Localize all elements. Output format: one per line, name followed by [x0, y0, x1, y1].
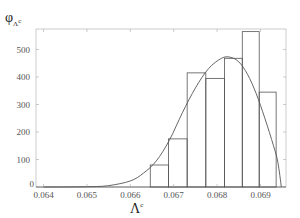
- histogram-bar: [168, 139, 187, 187]
- y-tick-label: 0: [30, 179, 35, 189]
- histogram-chart: 0.0640.0650.0660.0670.0680.069 010020030…: [0, 0, 300, 218]
- fitted-density-curve: [44, 57, 282, 187]
- histogram-bar: [259, 92, 276, 187]
- histogram-bar: [224, 58, 242, 187]
- x-axis-label: Λc: [130, 201, 143, 216]
- histogram-bars: [150, 32, 276, 187]
- y-tick-label: 100: [17, 155, 31, 165]
- y-tick-label: 300: [17, 100, 31, 110]
- y-axis-ticks: 0100200300400500: [17, 45, 287, 190]
- x-tick-label: 0.069: [250, 190, 271, 200]
- histogram-bar: [242, 32, 259, 187]
- y-tick-label: 500: [17, 45, 31, 55]
- histogram-bar: [150, 165, 168, 187]
- x-axis-ticks: 0.0640.0650.0660.0670.0680.069: [33, 29, 271, 200]
- y-axis-label: φΛc: [5, 10, 21, 28]
- x-tick-label: 0.065: [77, 190, 98, 200]
- x-tick-label: 0.067: [164, 190, 185, 200]
- x-tick-label: 0.068: [207, 190, 228, 200]
- histogram-bar: [187, 73, 206, 187]
- plot-frame: [36, 29, 286, 187]
- x-tick-label: 0.064: [33, 190, 54, 200]
- histogram-bar: [206, 78, 225, 187]
- y-tick-label: 400: [17, 72, 31, 82]
- x-tick-label: 0.066: [120, 190, 141, 200]
- y-tick-label: 200: [17, 127, 31, 137]
